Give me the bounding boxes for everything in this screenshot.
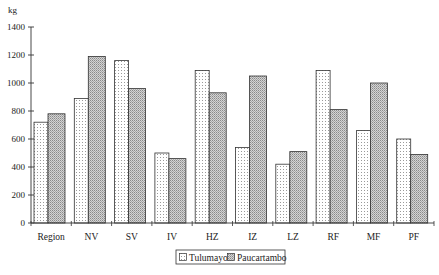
bar-tulumayo-sv	[115, 61, 129, 223]
bar-tulumayo-rf	[316, 70, 330, 223]
x-category-label: IV	[167, 232, 177, 242]
bar-paucartambo-iz	[250, 76, 267, 223]
bar-paucartambo-mf	[370, 83, 387, 223]
bar-paucartambo-nv	[88, 56, 105, 223]
y-tick-label: 400	[12, 162, 26, 172]
x-axis: RegionNVSVIVHZIZLZRFMFPF	[31, 221, 434, 242]
x-category-label: IZ	[248, 232, 257, 242]
bar-paucartambo-rf	[330, 110, 347, 223]
bar-tulumayo-hz	[195, 70, 209, 223]
y-tick-label: 800	[12, 106, 26, 116]
x-category-label: Region	[37, 232, 65, 242]
bar-paucartambo-sv	[129, 89, 146, 223]
y-tick-label: 0	[21, 218, 26, 228]
y-tick-label: 200	[12, 190, 26, 200]
bar-tulumayo-iz	[236, 147, 250, 223]
legend-swatch-tulumayo-icon	[180, 254, 187, 261]
bar-paucartambo-hz	[209, 93, 226, 223]
y-tick-label: 1400	[7, 22, 26, 32]
y-tick-label: 600	[12, 134, 26, 144]
x-category-label: HZ	[206, 232, 219, 242]
y-axis: 0200400600800100012001400	[7, 22, 34, 228]
bar-tulumayo-lz	[276, 164, 290, 223]
y-unit-label: kg	[8, 5, 18, 15]
y-tick-label: 1200	[7, 50, 26, 60]
x-category-label: SV	[126, 232, 138, 242]
bar-tulumayo-nv	[74, 98, 88, 223]
x-category-label: MF	[367, 232, 381, 242]
bar-tulumayo-pf	[397, 139, 411, 223]
x-category-label: PF	[409, 232, 420, 242]
legend: Tulumayo Paucartambo	[176, 250, 287, 264]
bar-tulumayo-iv	[155, 153, 169, 223]
bar-tulumayo-mf	[356, 131, 370, 223]
bar-paucartambo-region	[48, 114, 65, 223]
y-tick-label: 1000	[7, 78, 26, 88]
legend-label-tulumayo: Tulumayo	[189, 253, 228, 263]
bar-paucartambo-pf	[411, 154, 428, 223]
legend-swatch-paucartambo-icon	[228, 254, 235, 261]
bar-paucartambo-lz	[290, 152, 307, 223]
bar-chart: kg 0200400600800100012001400 RegionNVSVI…	[0, 0, 439, 275]
legend-label-paucartambo: Paucartambo	[237, 253, 287, 263]
x-category-label: RF	[327, 232, 339, 242]
bar-tulumayo-region	[34, 122, 48, 223]
x-category-label: LZ	[287, 232, 299, 242]
x-category-label: NV	[85, 232, 99, 242]
bar-paucartambo-iv	[169, 159, 186, 223]
bars	[34, 56, 428, 223]
